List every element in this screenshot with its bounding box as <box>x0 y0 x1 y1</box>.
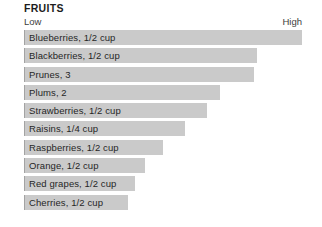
bar-row: Red grapes, 1/2 cup <box>24 176 302 191</box>
bar-row: Strawberries, 1/2 cup <box>24 103 302 118</box>
bar-row: Raisins, 1/4 cup <box>24 121 302 136</box>
axis-label-low: Low <box>24 16 41 27</box>
bar-label: Raisins, 1/4 cup <box>29 121 98 136</box>
bar-label: Orange, 1/2 cup <box>29 158 99 173</box>
bar-label: Cherries, 1/2 cup <box>29 195 103 210</box>
bar-row: Prunes, 3 <box>24 67 302 82</box>
bar-row: Raspberries, 1/2 cup <box>24 140 302 155</box>
bar-label: Plums, 2 <box>29 85 67 100</box>
bar-label: Strawberries, 1/2 cup <box>29 103 121 118</box>
bar-row: Blueberries, 1/2 cup <box>24 30 302 45</box>
bar-list: Blueberries, 1/2 cupBlackberries, 1/2 cu… <box>24 30 302 213</box>
bar-label: Blueberries, 1/2 cup <box>29 30 116 45</box>
bar-label: Prunes, 3 <box>29 67 71 82</box>
bar-row: Blackberries, 1/2 cup <box>24 48 302 63</box>
bar-label: Raspberries, 1/2 cup <box>29 140 119 155</box>
axis-scale: Low High <box>24 16 302 28</box>
page-title: FRUITS <box>24 2 64 14</box>
axis-label-high: High <box>282 16 302 27</box>
bar-row: Plums, 2 <box>24 85 302 100</box>
bar-row: Orange, 1/2 cup <box>24 158 302 173</box>
bar-label: Blackberries, 1/2 cup <box>29 48 120 63</box>
bar-label: Red grapes, 1/2 cup <box>29 176 116 191</box>
fruits-antioxidant-chart: FRUITS Low High Blueberries, 1/2 cupBlac… <box>0 0 322 227</box>
bar-row: Cherries, 1/2 cup <box>24 195 302 210</box>
